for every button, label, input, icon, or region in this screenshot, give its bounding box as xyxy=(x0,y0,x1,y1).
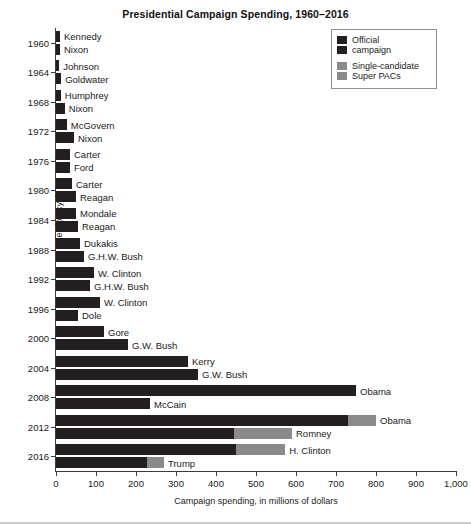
bar-row[interactable]: Mondale xyxy=(56,208,456,219)
y-axis-tick-label: 1988 xyxy=(28,244,49,255)
bar-row[interactable]: Reagan xyxy=(56,221,456,232)
bar-row[interactable]: Nixon xyxy=(56,103,456,114)
bar-label: Romney xyxy=(296,428,331,439)
bar-segment-official[interactable] xyxy=(56,149,70,160)
bar-segment-official[interactable] xyxy=(56,326,104,337)
bar-segment-official[interactable] xyxy=(56,444,236,455)
page-title: Presidential Campaign Spending, 1960–201… xyxy=(0,8,471,20)
y-axis-tick-label: 2008 xyxy=(28,392,49,403)
bar-segment-official[interactable] xyxy=(56,90,61,101)
bar-label: G.H.W. Bush xyxy=(94,280,149,291)
y-axis-tick-label: 1960 xyxy=(28,37,49,48)
bar-segment-super-pac[interactable] xyxy=(236,444,285,455)
bar-segment-official[interactable] xyxy=(56,103,65,114)
y-axis-tick-label: 1992 xyxy=(28,274,49,285)
bar-segment-super-pac[interactable] xyxy=(348,415,376,426)
bar-segment-official[interactable] xyxy=(56,251,84,262)
bar-segment-official[interactable] xyxy=(56,44,60,55)
bar-segment-official[interactable] xyxy=(56,310,78,321)
legend-label-super-pac: Single-candidate Super PACs xyxy=(352,61,419,81)
bar-row[interactable]: McGovern xyxy=(56,119,456,130)
bar-label: Nixon xyxy=(64,44,88,55)
y-axis-tick-label: 1984 xyxy=(28,214,49,225)
bar-label: Ford xyxy=(74,162,94,173)
bar-segment-official[interactable] xyxy=(56,415,348,426)
bar-row[interactable]: W. Clinton xyxy=(56,267,456,278)
bar-label: Trump xyxy=(168,457,195,468)
legend-swatch-group-super-pac xyxy=(337,61,347,82)
bar-segment-official[interactable] xyxy=(56,356,188,367)
bar-label: Kennedy xyxy=(64,31,102,42)
bar-row[interactable]: Obama xyxy=(56,385,456,396)
x-axis-tick-mark xyxy=(456,471,457,476)
bar-segment-official[interactable] xyxy=(56,267,94,278)
bar-segment-official[interactable] xyxy=(56,385,356,396)
bar-segment-official[interactable] xyxy=(56,132,74,143)
bar-segment-official[interactable] xyxy=(56,297,100,308)
bar-row[interactable]: Dukakis xyxy=(56,238,456,249)
bar-segment-official[interactable] xyxy=(56,31,60,42)
bar-label: Johnson xyxy=(63,60,99,71)
bar-segment-official[interactable] xyxy=(56,162,70,173)
bar-label: Kerry xyxy=(192,356,215,367)
bar-row[interactable]: McCain xyxy=(56,398,456,409)
bar-segment-official[interactable] xyxy=(56,369,198,380)
y-axis-tick-label: 1972 xyxy=(28,126,49,137)
legend-swatch-icon xyxy=(337,36,347,44)
bar-segment-super-pac[interactable] xyxy=(234,428,292,439)
bar-row[interactable]: Carter xyxy=(56,149,456,160)
x-axis-tick-mark xyxy=(216,471,217,476)
bar-segment-official[interactable] xyxy=(56,208,76,219)
bar-segment-super-pac[interactable] xyxy=(147,457,164,468)
x-axis-tick-label: 700 xyxy=(328,478,344,489)
bar-segment-official[interactable] xyxy=(56,119,67,130)
legend-swatch-group-official xyxy=(337,35,347,56)
bar-row[interactable]: Nixon xyxy=(56,132,456,143)
bar-row[interactable]: G.W. Bush xyxy=(56,339,456,350)
bar-label: Dole xyxy=(82,310,102,321)
bar-segment-official[interactable] xyxy=(56,457,147,468)
bar-segment-official[interactable] xyxy=(56,280,90,291)
bar-segment-official[interactable] xyxy=(56,191,76,202)
bar-label: McCain xyxy=(154,398,186,409)
bar-label: Nixon xyxy=(78,132,102,143)
y-axis-tick-label: 2012 xyxy=(28,421,49,432)
bar-label: Nixon xyxy=(69,103,93,114)
bar-row[interactable]: Carter xyxy=(56,178,456,189)
bar-label: McGovern xyxy=(71,119,115,130)
bar-row[interactable]: Romney xyxy=(56,428,456,439)
bar-row[interactable]: Kerry xyxy=(56,356,456,367)
bar-row[interactable]: G.H.W. Bush xyxy=(56,251,456,262)
legend-swatch-icon xyxy=(337,72,347,80)
bar-label: Reagan xyxy=(82,221,115,232)
x-axis-tick-label: 400 xyxy=(208,478,224,489)
bar-label: Mondale xyxy=(80,208,116,219)
x-axis-tick-label: 300 xyxy=(168,478,184,489)
bar-segment-official[interactable] xyxy=(56,428,234,439)
bar-row[interactable]: H. Clinton xyxy=(56,444,456,455)
bar-row[interactable]: Humphrey xyxy=(56,90,456,101)
bar-row[interactable]: G.W. Bush xyxy=(56,369,456,380)
bar-row[interactable]: W. Clinton xyxy=(56,297,456,308)
bar-row[interactable]: Obama xyxy=(56,415,456,426)
bar-segment-official[interactable] xyxy=(56,221,78,232)
x-axis-tick-mark xyxy=(256,471,257,476)
bar-label: G.W. Bush xyxy=(132,339,177,350)
bar-row[interactable]: Trump xyxy=(56,457,456,468)
bar-row[interactable]: Reagan xyxy=(56,191,456,202)
legend-swatch-icon xyxy=(337,46,347,54)
bar-segment-official[interactable] xyxy=(56,178,72,189)
bar-row[interactable]: Ford xyxy=(56,162,456,173)
bar-row[interactable]: G.H.W. Bush xyxy=(56,280,456,291)
x-axis-tick-label: 200 xyxy=(128,478,144,489)
bar-segment-official[interactable] xyxy=(56,60,59,71)
bar-row[interactable]: Gore xyxy=(56,326,456,337)
bar-segment-official[interactable] xyxy=(56,398,150,409)
bar-label: Reagan xyxy=(80,191,113,202)
bar-row[interactable]: Dole xyxy=(56,310,456,321)
bar-label: Carter xyxy=(76,178,102,189)
x-axis-tick-mark xyxy=(96,471,97,476)
bar-segment-official[interactable] xyxy=(56,73,61,84)
bar-segment-official[interactable] xyxy=(56,339,128,350)
bar-segment-official[interactable] xyxy=(56,238,80,249)
